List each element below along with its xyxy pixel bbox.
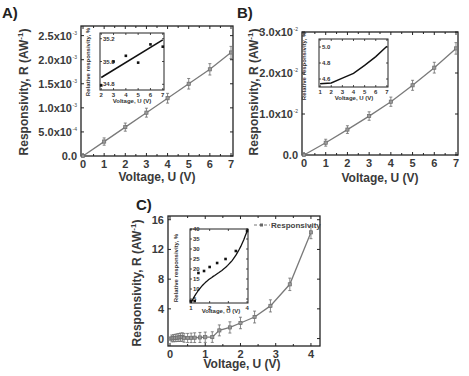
svg-text:1: 1 bbox=[318, 89, 322, 95]
svg-text:0.0: 0.0 bbox=[62, 150, 77, 162]
svg-text:4: 4 bbox=[165, 158, 172, 170]
svg-text:4.8: 4.8 bbox=[322, 60, 331, 66]
svg-text:3: 3 bbox=[143, 158, 149, 170]
svg-text:-3: -3 bbox=[73, 54, 78, 60]
svg-text:2.5x10: 2.5x10 bbox=[38, 30, 72, 42]
svg-text:15: 15 bbox=[193, 276, 200, 282]
panel-a-label: A) bbox=[2, 4, 18, 21]
panel-a-inset-y-title: Relative responsivity, % bbox=[85, 27, 91, 96]
svg-text:4: 4 bbox=[308, 348, 315, 360]
panel-a-inset: 23456734.835.035.2 Voltage, U (V) Relati… bbox=[85, 27, 165, 104]
svg-text:5.0x10: 5.0x10 bbox=[38, 126, 72, 138]
panel-b-y-title: Responsivity, R (AW-1) bbox=[246, 29, 261, 156]
svg-text:20: 20 bbox=[193, 266, 200, 272]
svg-text:35: 35 bbox=[193, 236, 200, 242]
svg-text:1.0x10: 1.0x10 bbox=[259, 108, 293, 120]
svg-text:40: 40 bbox=[193, 226, 200, 232]
svg-text:25: 25 bbox=[193, 256, 200, 262]
svg-text:6: 6 bbox=[431, 157, 437, 169]
svg-text:8: 8 bbox=[158, 273, 164, 285]
svg-text:4.6: 4.6 bbox=[322, 76, 331, 82]
svg-text:3.0x10: 3.0x10 bbox=[259, 26, 293, 38]
panel-b-inset-y-title: Relative responsivity, % bbox=[301, 31, 307, 100]
svg-text:4: 4 bbox=[388, 157, 395, 169]
svg-text:0.0: 0.0 bbox=[283, 149, 298, 161]
panel-a-x-title: Voltage, U (V) bbox=[118, 170, 195, 184]
panel-a-inset-x-title: Voltage, U (V) bbox=[113, 98, 152, 104]
panel-c-legend: Responsivity bbox=[254, 221, 321, 230]
svg-text:12: 12 bbox=[152, 243, 164, 255]
panel-c-inset-y-title: Relative responsivity, % bbox=[173, 233, 179, 302]
panel-a-y-title: Responsivity, R (AW-1) bbox=[16, 29, 31, 156]
panel-a: A) 01234567 0.05.0x10-41.0x10-31.5x10-32… bbox=[2, 4, 234, 184]
svg-text:3: 3 bbox=[366, 157, 372, 169]
panel-b-inset: 12345674.64.85.0 Voltage, U (V) Relative… bbox=[301, 31, 389, 101]
svg-text:34.8: 34.8 bbox=[103, 81, 115, 87]
svg-text:7: 7 bbox=[228, 158, 234, 170]
svg-text:2.0x10: 2.0x10 bbox=[38, 54, 72, 66]
svg-text:2.0x10: 2.0x10 bbox=[259, 67, 293, 79]
svg-text:7: 7 bbox=[385, 89, 389, 95]
svg-text:4: 4 bbox=[245, 305, 249, 311]
svg-text:-3: -3 bbox=[73, 78, 78, 84]
panel-c-y-title: Responsivity, R (AW-1) bbox=[129, 220, 144, 347]
svg-text:4: 4 bbox=[158, 303, 165, 315]
panel-b: B) 01234567 0.01.0x10-22.0x10-23.0x10-2 … bbox=[237, 4, 459, 185]
svg-text:6: 6 bbox=[374, 89, 378, 95]
svg-text:7: 7 bbox=[161, 92, 165, 98]
legend-marker-icon bbox=[260, 224, 263, 227]
svg-text:-3: -3 bbox=[73, 102, 78, 108]
svg-text:0: 0 bbox=[158, 333, 164, 345]
svg-text:2: 2 bbox=[330, 89, 334, 95]
svg-text:0: 0 bbox=[167, 348, 173, 360]
svg-text:7: 7 bbox=[453, 157, 459, 169]
svg-text:-2: -2 bbox=[294, 67, 299, 73]
svg-text:2: 2 bbox=[122, 158, 128, 170]
svg-text:0: 0 bbox=[80, 158, 86, 170]
svg-text:1: 1 bbox=[189, 305, 193, 311]
panel-c-inset: 1234510152025303540 Voltage, U (V) Relat… bbox=[173, 226, 249, 314]
svg-text:35.2: 35.2 bbox=[103, 36, 115, 42]
panel-c-label: C) bbox=[136, 196, 152, 213]
svg-text:0: 0 bbox=[301, 157, 307, 169]
svg-text:16: 16 bbox=[152, 214, 164, 226]
svg-text:2: 2 bbox=[344, 157, 350, 169]
svg-text:1: 1 bbox=[101, 158, 107, 170]
panel-c-x-title: Voltage, U (V) bbox=[203, 357, 280, 371]
panel-b-label: B) bbox=[237, 4, 253, 21]
svg-text:-2: -2 bbox=[294, 108, 299, 114]
svg-text:-3: -3 bbox=[73, 30, 78, 36]
svg-text:5.0: 5.0 bbox=[322, 44, 331, 50]
svg-text:2: 2 bbox=[100, 92, 104, 98]
svg-text:1: 1 bbox=[323, 157, 329, 169]
figure: A) 01234567 0.05.0x10-41.0x10-31.5x10-32… bbox=[0, 0, 469, 376]
svg-text:5: 5 bbox=[410, 157, 416, 169]
svg-text:6: 6 bbox=[207, 158, 213, 170]
svg-text:30: 30 bbox=[193, 246, 200, 252]
svg-text:1.5x10: 1.5x10 bbox=[38, 78, 72, 90]
legend-label: Responsivity bbox=[271, 221, 321, 230]
panel-c: C) 01234 0481216 Voltage, U (V) Responsi… bbox=[129, 196, 321, 371]
panel-b-x-title: Voltage, U (V) bbox=[341, 171, 418, 185]
svg-text:1.0x10: 1.0x10 bbox=[38, 102, 72, 114]
panel-b-inset-x-title: Voltage, U (V) bbox=[335, 95, 374, 101]
svg-text:5: 5 bbox=[186, 158, 192, 170]
svg-text:-2: -2 bbox=[294, 26, 299, 32]
panel-c-inset-x-title: Voltage, U (V) bbox=[202, 308, 241, 314]
svg-text:-4: -4 bbox=[73, 126, 78, 132]
